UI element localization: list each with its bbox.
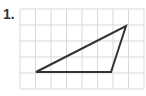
- grid-diagram: [0, 0, 146, 96]
